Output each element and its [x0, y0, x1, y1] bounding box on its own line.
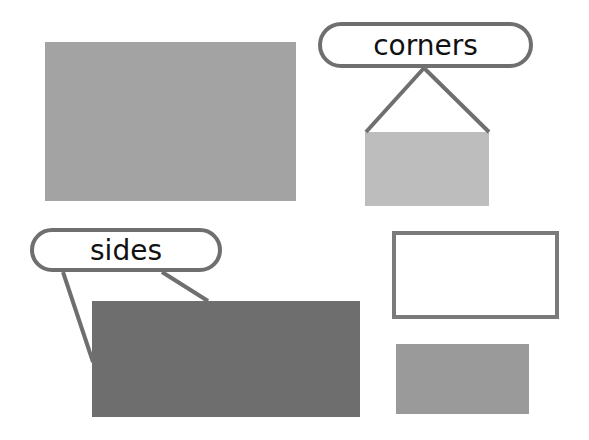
sides-callout-label: sides: [30, 228, 222, 272]
sides-label-text: sides: [90, 234, 162, 267]
corners-label-text: corners: [373, 29, 478, 62]
corners-callout-label: corners: [318, 22, 533, 68]
